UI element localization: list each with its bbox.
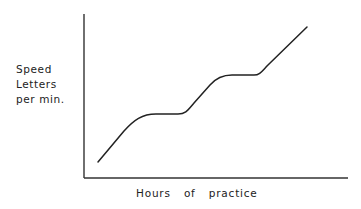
learning-curve-chart: Speed Letters per min. Hours of practice [0, 0, 361, 209]
y-axis-label-line-3: per min. [16, 94, 65, 105]
x-axis-label: Hours of practice [136, 188, 258, 199]
learning-curve-line [98, 27, 307, 162]
y-axis-label-line-1: Speed [16, 64, 52, 75]
y-axis-label-line-2: Letters [16, 79, 57, 90]
